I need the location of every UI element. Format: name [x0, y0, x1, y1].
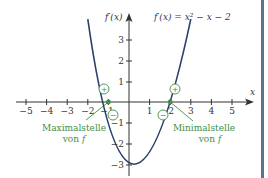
max-annotation: Maximalstelle von f — [42, 123, 106, 144]
svg-text:von f: von f — [62, 134, 87, 144]
max-point-marker — [106, 100, 111, 105]
svg-text:−: − — [110, 111, 117, 120]
sign-minus-left: − — [108, 110, 118, 120]
min-point-marker — [168, 100, 173, 105]
x-tick-labels: −5 −4 −3 −2 −1 1 2 3 4 5 — [19, 106, 235, 116]
svg-text:−: − — [160, 111, 167, 120]
svg-text:1: 1 — [118, 77, 124, 87]
x-axis-label: x — [250, 87, 255, 97]
svg-text:Maximalstelle: Maximalstelle — [42, 123, 106, 133]
x-axis: x −5 −4 −3 −2 −1 1 2 3 4 5 — [16, 87, 255, 116]
svg-text:−3: −3 — [111, 160, 125, 170]
svg-text:5: 5 — [229, 106, 235, 116]
y-axis-label: f′(x) — [104, 12, 123, 22]
sign-plus-left: + — [99, 84, 109, 94]
sign-plus-right: + — [170, 84, 180, 94]
min-annotation: Minimalstelle von f — [173, 123, 235, 144]
svg-text:von f: von f — [198, 134, 223, 144]
svg-text:2: 2 — [118, 56, 124, 66]
svg-text:3: 3 — [188, 106, 194, 116]
svg-text:Minimalstelle: Minimalstelle — [173, 123, 235, 133]
svg-text:−3: −3 — [61, 106, 75, 116]
svg-text:3: 3 — [118, 35, 124, 45]
svg-text:4: 4 — [209, 106, 215, 116]
chart-svg: x −5 −4 −3 −2 −1 1 2 3 4 5 — [0, 0, 268, 178]
svg-text:−5: −5 — [19, 106, 33, 116]
function-label: f′(x) = x² − x − 2 — [153, 12, 231, 22]
svg-text:−4: −4 — [40, 106, 54, 116]
svg-text:+: + — [172, 85, 179, 94]
frame-border — [261, 0, 264, 178]
y-axis: f′(x) 3 2 1 −1 −2 −3 — [104, 12, 133, 176]
derivative-chart: x −5 −4 −3 −2 −1 1 2 3 4 5 — [0, 0, 268, 178]
svg-text:1: 1 — [147, 106, 153, 116]
sign-minus-right: − — [158, 110, 168, 120]
svg-text:+: + — [101, 85, 108, 94]
